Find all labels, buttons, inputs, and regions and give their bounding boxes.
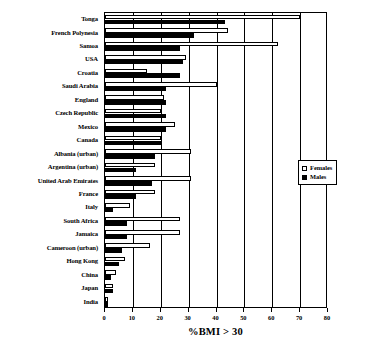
- bar-row: [105, 269, 326, 282]
- y-axis-label: French Polynesia: [51, 29, 98, 36]
- y-axis-label: South Africa: [63, 217, 98, 224]
- y-axis-label: Mexico: [78, 123, 98, 130]
- x-tick-label: 40: [206, 313, 226, 322]
- bar-row: [105, 80, 326, 93]
- bar-rows: [105, 13, 326, 307]
- bar-row: [105, 242, 326, 255]
- bar-males: [105, 302, 108, 307]
- bar-males: [105, 114, 166, 119]
- bar-males: [105, 73, 180, 78]
- bar-males: [105, 235, 127, 240]
- x-axis-title: %BMI > 30: [104, 326, 327, 337]
- bar-males: [105, 60, 183, 65]
- bar-row: [105, 215, 326, 228]
- x-tick: [188, 308, 189, 312]
- y-axis-label: Tonga: [81, 15, 98, 22]
- x-axis-tick-labels: 01020304050607080: [104, 313, 327, 325]
- x-tick-label: 10: [122, 313, 142, 322]
- bar-row: [105, 188, 326, 201]
- y-axis-label: India: [83, 298, 98, 305]
- bar-males: [105, 154, 155, 159]
- x-tick-label: 30: [178, 313, 198, 322]
- y-axis-label: Argentina (urban): [48, 163, 98, 170]
- bar-row: [105, 161, 326, 174]
- x-tick-label: 70: [289, 313, 309, 322]
- bar-row: [105, 40, 326, 53]
- legend-item-males: Males: [302, 173, 332, 181]
- x-tick: [299, 308, 300, 312]
- y-axis-label: Canada: [77, 136, 98, 143]
- bar-row: [105, 174, 326, 187]
- y-axis-label: Japan: [81, 284, 98, 291]
- bar-row: [105, 296, 326, 309]
- bar-row: [105, 228, 326, 241]
- y-axis-label: United Arab Emirates: [38, 177, 98, 184]
- bar-males: [105, 46, 180, 51]
- chart-legend: Females Males: [298, 160, 337, 185]
- bar-males: [105, 289, 113, 294]
- y-axis-label: China: [81, 271, 98, 278]
- bmi-bar-chart: TongaFrench PolynesiaSamoaUSACroatiaSaud…: [0, 0, 381, 355]
- bar-males: [105, 100, 166, 105]
- bar-row: [105, 26, 326, 39]
- x-tick: [104, 308, 105, 312]
- bar-males: [105, 221, 127, 226]
- x-tick: [160, 308, 161, 312]
- y-axis-label: Italy: [85, 203, 98, 210]
- bar-row: [105, 201, 326, 214]
- bar-row: [105, 282, 326, 295]
- legend-label-females: Females: [310, 164, 332, 172]
- bar-males: [105, 127, 166, 132]
- bar-males: [105, 181, 152, 186]
- bar-row: [105, 121, 326, 134]
- x-tick-label: 80: [317, 313, 337, 322]
- y-axis-label: England: [75, 96, 98, 103]
- bar-males: [105, 33, 194, 38]
- x-tick: [132, 308, 133, 312]
- bar-row: [105, 53, 326, 66]
- y-axis-label: Hong Kong: [66, 257, 98, 264]
- x-tick-label: 0: [94, 313, 114, 322]
- legend-label-males: Males: [310, 173, 326, 181]
- legend-swatch-males-icon: [302, 175, 307, 180]
- x-tick-label: 50: [233, 313, 253, 322]
- y-axis-labels: TongaFrench PolynesiaSamoaUSACroatiaSaud…: [0, 12, 101, 308]
- legend-item-females: Females: [302, 164, 332, 172]
- y-axis-label: Croatia: [77, 69, 98, 76]
- plot-area: [104, 12, 327, 308]
- x-tick: [271, 308, 272, 312]
- bar-row: [105, 94, 326, 107]
- y-axis-label: Czech Republic: [55, 109, 98, 116]
- bar-row: [105, 13, 326, 26]
- bar-row: [105, 134, 326, 147]
- bar-males: [105, 262, 119, 267]
- bar-males: [105, 194, 136, 199]
- legend-swatch-females-icon: [302, 166, 307, 171]
- bar-row: [105, 148, 326, 161]
- y-axis-label: Samoa: [79, 42, 98, 49]
- x-tick: [243, 308, 244, 312]
- bar-row: [105, 255, 326, 268]
- bar-males: [105, 208, 113, 213]
- bar-males: [105, 87, 166, 92]
- y-axis-label: Saudi Arabia: [62, 82, 98, 89]
- y-axis-label: Cameroon (urban): [47, 244, 98, 251]
- x-tick: [327, 308, 328, 312]
- y-axis-label: Jamaica: [75, 230, 98, 237]
- y-axis-label: France: [79, 190, 98, 197]
- bar-males: [105, 275, 111, 280]
- bar-row: [105, 67, 326, 80]
- x-tick-label: 20: [150, 313, 170, 322]
- bar-males: [105, 248, 122, 253]
- bar-row: [105, 107, 326, 120]
- x-tick-label: 60: [261, 313, 281, 322]
- bar-males: [105, 168, 136, 173]
- x-tick: [216, 308, 217, 312]
- bar-males: [105, 20, 225, 25]
- y-axis-label: USA: [85, 55, 98, 62]
- y-axis-label: Albania (urban): [54, 150, 98, 157]
- bar-males: [105, 141, 161, 146]
